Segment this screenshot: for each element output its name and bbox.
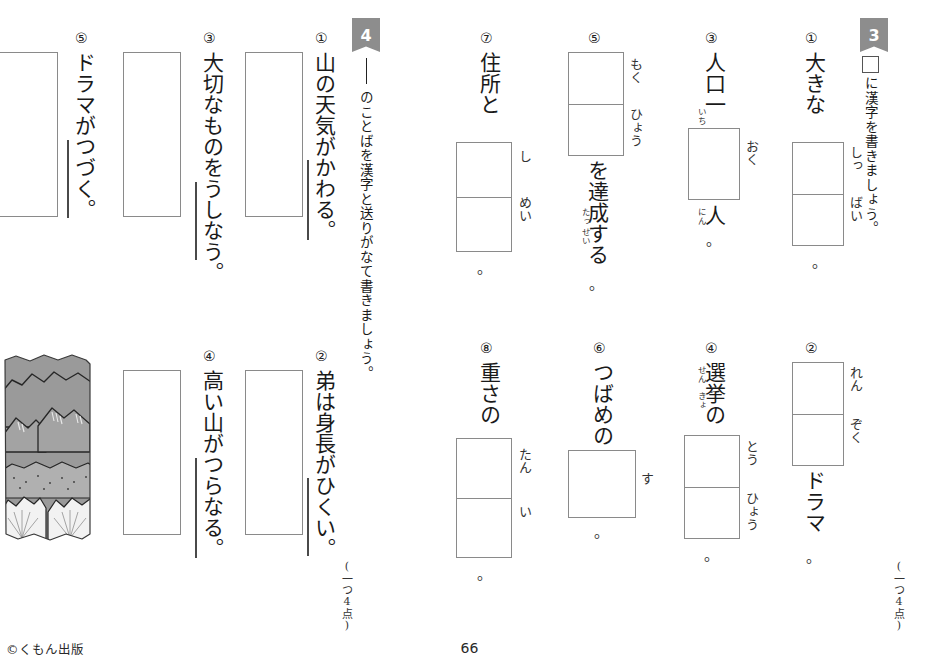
instruction-lead-rule (366, 58, 367, 84)
hint-reading: もく (629, 58, 643, 84)
sentence-period: 。 (812, 250, 827, 271)
target-word-underline (67, 140, 69, 218)
answer-box[interactable] (0, 52, 58, 217)
item-number: ④ (203, 348, 216, 364)
hint-reading: たん (518, 448, 532, 474)
hint-reading: おく (745, 140, 759, 166)
item-number: ③ (203, 30, 216, 46)
hint-reading: ぞく (849, 418, 863, 444)
target-word-underline (195, 182, 197, 260)
section-4-flag: 4 (352, 18, 380, 52)
hint-reading: ばい (849, 196, 863, 222)
item-sentence: ドラマがつづく。 (72, 52, 94, 220)
item-number: ③ (705, 30, 718, 46)
worksheet-page: 3 に漢字を書きましょう。 (一つ4点) ① 大きな しっ ばい 。 ② れん … (0, 0, 939, 666)
hint-reading: し (518, 150, 532, 163)
section-3-flag: 3 (860, 18, 888, 52)
answer-box[interactable] (123, 370, 181, 535)
section-3-instruction-wrap: に漢字を書きましょう。 (862, 56, 879, 236)
item-number: ④ (705, 340, 718, 356)
item-sentence: 弟は身長がひくい。 (312, 370, 334, 559)
ruby-furigana: たっ (580, 208, 589, 226)
answer-box[interactable] (456, 438, 512, 558)
section-4-instruction-text: のことばを漢字と送りがなて書きましょう。 (359, 90, 373, 380)
item-number: ⑤ (75, 30, 88, 46)
answer-box[interactable] (123, 52, 181, 217)
ruby-furigana: いち (696, 108, 705, 126)
item-number: ⑥ (593, 340, 606, 356)
sentence-period: 。 (704, 543, 719, 564)
answer-box[interactable] (684, 435, 740, 539)
ruby-furigana: せん (696, 366, 705, 384)
item-number: ② (805, 340, 818, 356)
item-sentence: 山の天気がかわる。 (312, 52, 334, 241)
page-number: 66 (0, 640, 939, 656)
answer-box[interactable] (792, 142, 844, 246)
hint-reading: す (640, 472, 654, 485)
mountain-range-illustration (2, 352, 94, 542)
item-prefix-text: 大きな (802, 52, 824, 115)
answer-box[interactable] (792, 362, 844, 466)
item-number: ① (315, 30, 328, 46)
ruby-furigana: せい (580, 228, 589, 246)
hint-reading: めい (518, 196, 532, 222)
target-word-underline (307, 478, 309, 556)
hint-reading: れん (849, 366, 863, 392)
sentence-period: 。 (706, 228, 721, 249)
hint-reading: ひょう (629, 108, 643, 147)
hint-reading: い (518, 505, 532, 518)
item-prefix-text: つばめの (590, 362, 612, 446)
item-prefix-text: 重さの (477, 362, 499, 425)
sentence-period: 。 (589, 272, 604, 293)
item-suffix-text: ドラマ (802, 470, 824, 533)
target-word-underline (195, 458, 197, 558)
item-number: ⑦ (480, 30, 493, 46)
section-4-points: (一つ4点) (341, 560, 352, 632)
item-sentence: 大切なものをうしなう。 (200, 52, 222, 283)
item-number: ② (315, 348, 328, 364)
ruby-furigana: きょ (696, 392, 705, 410)
sentence-period: 。 (477, 562, 492, 583)
target-word-underline (307, 160, 309, 240)
item-prefix-text: 人口一 (702, 52, 724, 115)
answer-box[interactable] (456, 142, 512, 252)
sentence-period: 。 (477, 256, 492, 277)
item-number: ① (805, 30, 818, 46)
hint-reading: とう (745, 440, 759, 466)
item-number: ⑧ (480, 340, 493, 356)
answer-box[interactable] (568, 52, 624, 156)
item-prefix-text: 住所と (477, 52, 499, 115)
instruction-empty-box-icon (862, 56, 879, 73)
section-3-instruction-text: に漢字を書きましょう。 (863, 76, 879, 236)
answer-box[interactable] (245, 52, 303, 217)
hint-reading: しっ (849, 146, 863, 172)
answer-box[interactable] (245, 370, 303, 535)
section-3-points: (一つ4点) (893, 560, 904, 632)
sentence-period: 。 (806, 545, 821, 566)
answer-box[interactable] (688, 128, 740, 200)
item-sentence: 高い山がつらなる。 (200, 370, 222, 559)
sentence-period: 。 (594, 520, 609, 541)
hint-reading: ひょう (745, 492, 759, 531)
ruby-furigana: にん (696, 208, 705, 226)
item-number: ⑤ (588, 30, 601, 46)
answer-box[interactable] (568, 450, 636, 518)
